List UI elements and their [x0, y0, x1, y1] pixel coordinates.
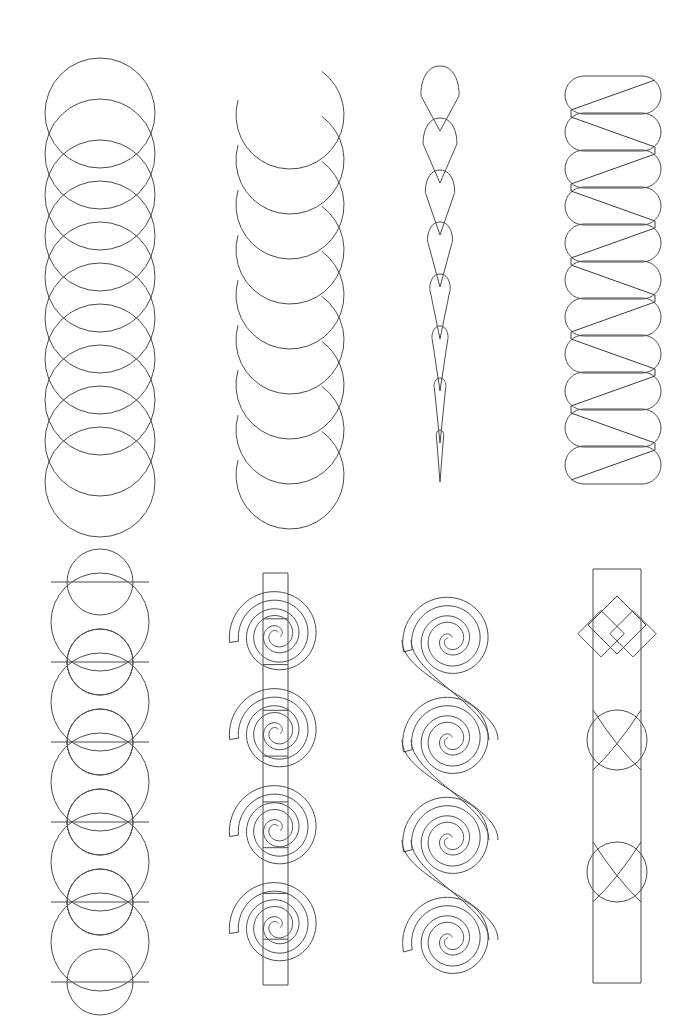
scallop-arc: [236, 296, 344, 394]
linked-spiral-cap: [404, 950, 413, 952]
overlapping-circles-svg: [0, 0, 200, 520]
braid-large-circle: [51, 653, 149, 751]
knot-cross-strand-a: [593, 710, 641, 770]
knotted-strap-svg: [520, 520, 697, 1029]
scallop-arc: [236, 341, 344, 439]
braid-circles-group: [51, 549, 149, 1015]
knot-cross-strand-b: [593, 842, 641, 902]
linked-spiral-outer: [403, 697, 488, 773]
teardrop-petal: [425, 170, 454, 235]
braid-large-circle: [51, 573, 149, 671]
panel-c-arc-scallop-chain: [180, 0, 380, 520]
chain-circle: [45, 263, 155, 373]
spiral-band-svg: [180, 520, 380, 1029]
scallop-arc: [236, 251, 344, 349]
chain-circle: [45, 58, 155, 168]
circle-chain-group: [45, 58, 155, 537]
braid-large-circle: [51, 893, 149, 991]
chain-circle: [45, 181, 155, 291]
linked-spiral-outer: [403, 597, 488, 673]
knot-cross-strand-a: [593, 842, 641, 902]
scallop-arc: [236, 431, 344, 529]
braid-large-circle: [51, 813, 149, 911]
chain-circle: [45, 140, 155, 250]
zigzag-line: [571, 80, 655, 480]
spiral-inner-line: [238, 697, 308, 759]
spiral-inner-line: [238, 891, 308, 953]
knot-diamond-left: [578, 611, 625, 657]
interlaced-circles-svg: [0, 520, 200, 1029]
teardrop-petal: [436, 430, 443, 482]
chain-circle: [45, 345, 155, 455]
teardrop-chain-svg: [355, 0, 535, 520]
panel-spirals-with-vertical-band: [180, 520, 380, 1029]
spiral-band-cap: [230, 932, 239, 933]
spiral-inner-line: [238, 600, 308, 662]
braid-large-circle: [51, 733, 149, 831]
linked-spiral-outer: [403, 797, 488, 873]
spiral-band-cap: [230, 738, 239, 739]
teardrop-petal: [430, 274, 451, 339]
stadium-zigzag-svg: [520, 0, 697, 520]
arc-chain-svg: [180, 0, 380, 520]
teardrop-petal: [428, 222, 453, 287]
scallop-arc: [236, 71, 344, 169]
scallop-arc: [236, 386, 344, 484]
teardrop-chain-group: [421, 66, 459, 482]
teardrop-petal: [421, 66, 459, 131]
knot-diamond-right: [610, 611, 656, 657]
panel-guilloche-braid-circles: [0, 520, 200, 1029]
scallop-arc: [236, 206, 344, 304]
panel-knotted-strap-band: [520, 520, 697, 1029]
panel-zigzag-stadium-stack: [520, 0, 697, 520]
ornament-plate: [0, 0, 697, 1029]
linked-spiral-group: [402, 597, 498, 973]
strap-group: [578, 569, 656, 983]
spiral-group: [229, 592, 316, 961]
knot-loop-circle: [587, 842, 647, 902]
scallop-arc: [236, 116, 344, 214]
vertical-band-group: [263, 573, 288, 985]
spiral-band-cap: [230, 641, 239, 642]
knot-diamond-center: [588, 596, 646, 654]
spiral-band-cap: [230, 835, 239, 836]
chain-circle: [45, 304, 155, 414]
panel-overlapping-circles-chain: [0, 0, 200, 520]
linked-spiral-outer: [403, 897, 488, 973]
chain-circle: [45, 99, 155, 209]
scallop-arc: [236, 161, 344, 259]
teardrop-petal: [423, 118, 457, 183]
spiral-inner-line: [238, 794, 308, 856]
knot-cross-strand-b: [593, 710, 641, 770]
knot-loop-circle: [587, 710, 647, 770]
chain-circle: [45, 222, 155, 332]
chain-circle: [45, 386, 155, 496]
teardrop-petal: [432, 326, 448, 391]
zigzag-line-group: [571, 80, 655, 480]
arc-chain-group: [236, 71, 344, 529]
panel-tapering-teardrop-chain: [355, 0, 535, 520]
